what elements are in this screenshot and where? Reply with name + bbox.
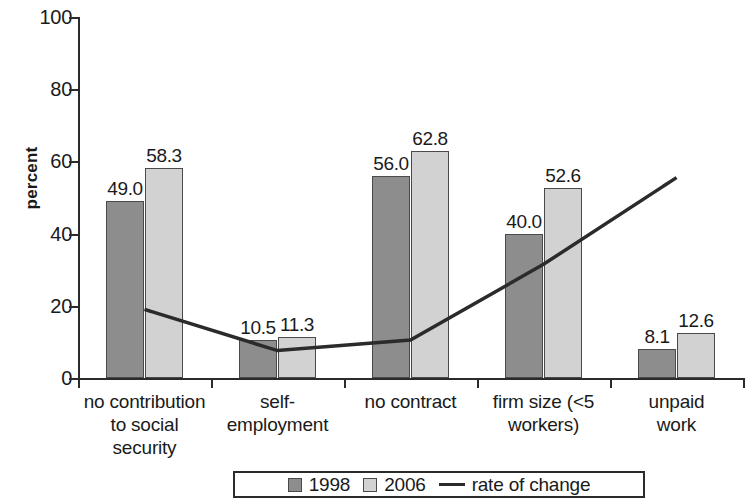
legend-item-rate-of-change[interactable]: rate of change xyxy=(439,475,591,494)
y-tick-label: 40 xyxy=(22,224,72,244)
legend-item-2006[interactable]: 2006 xyxy=(363,475,425,494)
x-category-label-line: security xyxy=(72,436,217,459)
y-tick-label: 80 xyxy=(22,79,72,99)
x-category-label-line: no contribution xyxy=(72,390,217,413)
chart-legend: 1998 2006 rate of change xyxy=(233,471,645,498)
x-tick-mark xyxy=(78,378,80,388)
x-category-label-1: self-employment xyxy=(205,390,350,436)
x-category-label-3: firm size (<5workers) xyxy=(471,390,616,436)
legend-label-2006: 2006 xyxy=(384,475,425,494)
x-category-label-line: workers) xyxy=(471,413,616,436)
y-tick-label: 0 xyxy=(22,368,72,388)
legend-item-1998[interactable]: 1998 xyxy=(288,475,350,494)
x-category-label-line: self- xyxy=(205,390,350,413)
x-category-label-4: unpaidwork xyxy=(604,390,745,436)
x-category-label-line: unpaid xyxy=(604,390,745,413)
x-tick-mark xyxy=(211,378,213,388)
y-tick-mark xyxy=(69,306,78,308)
y-tick-label: 100 xyxy=(22,7,72,27)
legend-label-rate-of-change: rate of change xyxy=(472,475,591,494)
y-tick-mark xyxy=(69,89,78,91)
x-category-label-2: no contract xyxy=(338,390,483,413)
bar-line-combo-chart: percent 020406080100 49.010.556.040.08.1… xyxy=(0,0,745,501)
x-tick-mark xyxy=(477,378,479,388)
plot-area: 49.010.556.040.08.158.311.362.852.612.6 xyxy=(78,17,743,378)
square-dark-swatch-icon xyxy=(288,478,302,492)
x-category-label-line: to social xyxy=(72,413,217,436)
y-tick-mark xyxy=(69,161,78,163)
x-tick-mark xyxy=(610,378,612,388)
legend-label-1998: 1998 xyxy=(309,475,350,494)
x-category-label-line: no contract xyxy=(338,390,483,413)
rate-of-change-line xyxy=(78,17,743,378)
y-tick-mark xyxy=(69,17,78,19)
y-tick-mark xyxy=(69,378,78,380)
y-tick-label: 20 xyxy=(22,296,72,316)
x-tick-mark xyxy=(344,378,346,388)
square-light-swatch-icon xyxy=(363,478,377,492)
line-marker-icon xyxy=(439,483,465,486)
x-axis-line xyxy=(78,378,743,380)
x-category-label-0: no contributionto socialsecurity xyxy=(72,390,217,459)
x-category-label-line: firm size (<5 xyxy=(471,390,616,413)
y-axis-title: percent xyxy=(22,118,42,238)
x-category-label-line: work xyxy=(604,413,745,436)
y-tick-label: 60 xyxy=(22,151,72,171)
y-tick-mark xyxy=(69,234,78,236)
x-category-label-line: employment xyxy=(205,413,350,436)
